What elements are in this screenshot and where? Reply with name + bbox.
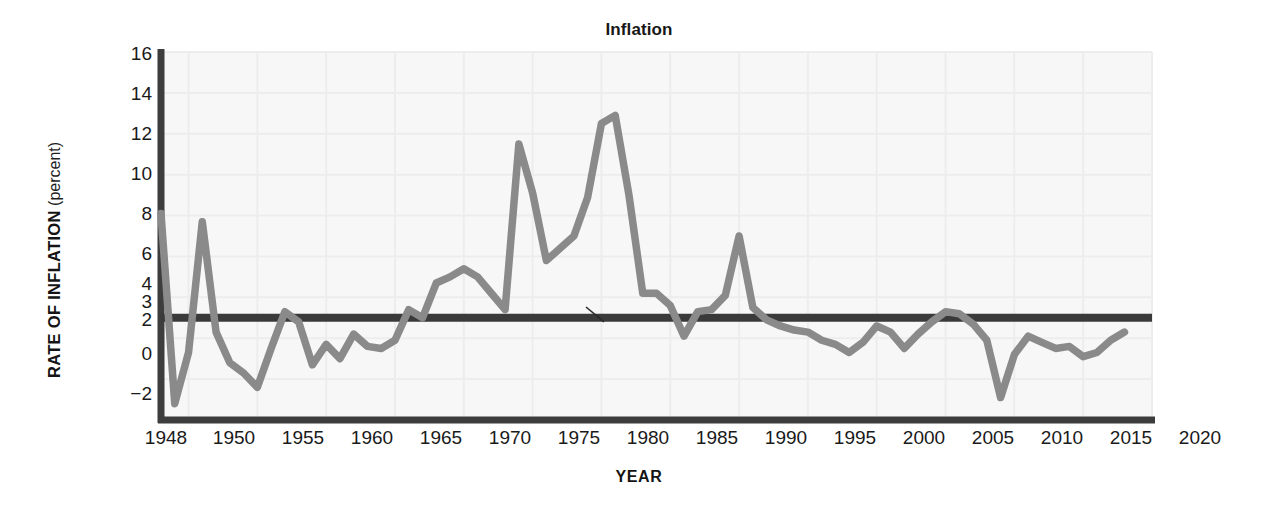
inflation-chart-figure: Inflation RATE OF INFLATION (percent) 16… [0, 0, 1278, 522]
plot-area [0, 0, 1278, 522]
